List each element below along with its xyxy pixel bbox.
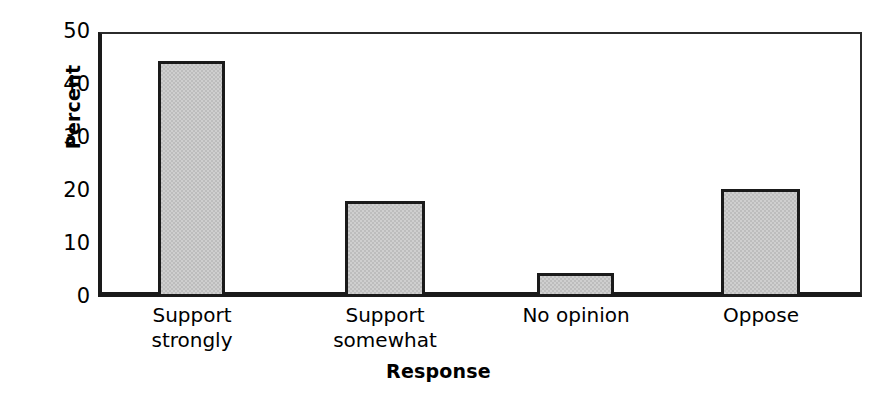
x-tick-label-oppose: Oppose [681, 303, 841, 328]
y-tick-label-50: 50 [36, 21, 90, 42]
x-axis-tick-labels: Support strongly Support somewhat No opi… [98, 303, 862, 361]
x-axis-title: Response [0, 360, 877, 383]
x-tick-label-line1-1: Support [345, 303, 424, 327]
y-tick-label-10: 10 [36, 233, 90, 254]
x-tick-label-line2-1: somewhat [305, 328, 465, 353]
bar-support-somewhat[interactable] [345, 201, 425, 298]
x-tick-label-line1-0: Support [152, 303, 231, 327]
bar-no-opinion[interactable] [537, 273, 614, 297]
x-tick-label-line2-0: strongly [112, 328, 272, 353]
x-tick-label-support-strongly: Support strongly [112, 303, 272, 353]
bars-container [98, 32, 862, 297]
y-tick-label-0: 0 [36, 286, 90, 307]
y-axis-title: Percent [62, 42, 84, 172]
x-tick-label-support-somewhat: Support somewhat [305, 303, 465, 353]
y-tick-label-20: 20 [36, 180, 90, 201]
x-tick-label-no-opinion: No opinion [496, 303, 656, 328]
x-tick-label-line1-3: Oppose [723, 303, 799, 327]
bar-support-strongly[interactable] [158, 61, 225, 297]
bar-oppose[interactable] [721, 189, 800, 297]
bar-chart: Percent 50 40 30 20 10 0 [0, 0, 877, 393]
x-tick-label-line1-2: No opinion [522, 303, 629, 327]
